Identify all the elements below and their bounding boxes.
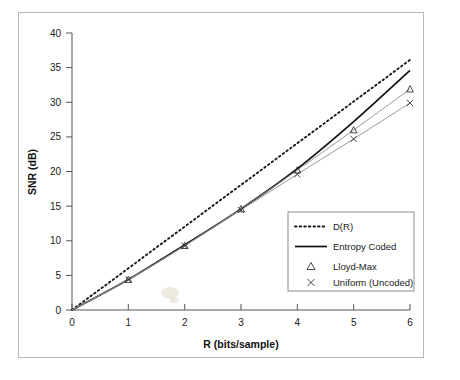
- y-tick-label: 40: [50, 28, 62, 39]
- x-tick-label: 4: [295, 317, 301, 328]
- x-tick-label: 6: [407, 317, 413, 328]
- data-point-marker-triangle: [407, 86, 414, 92]
- y-tick-label: 0: [55, 305, 61, 316]
- x-axis-ticks: [72, 304, 410, 310]
- y-tick-label: 5: [55, 270, 61, 281]
- figure-root: 0 5 10 15 20 25 30 35 40 0 1 2 3 4 5 6 R…: [0, 0, 460, 380]
- legend-label-uniform-uncoded: Uniform (Uncoded): [333, 277, 413, 288]
- legend: D(R) Entropy Coded Lloyd-Max Uniform (Un…: [288, 212, 414, 291]
- x-tick-label: 1: [126, 317, 132, 328]
- y-axis-ticks: [66, 33, 72, 310]
- data-point-marker-x: [351, 136, 357, 142]
- x-tick-label: 2: [182, 317, 188, 328]
- legend-label-entropy-coded: Entropy Coded: [333, 241, 396, 252]
- y-tick-label: 30: [50, 97, 62, 108]
- x-tick-label: 0: [69, 317, 75, 328]
- legend-label-lloyd-max: Lloyd-Max: [333, 261, 377, 272]
- y-tick-label: 25: [50, 131, 62, 142]
- x-tick-label: 3: [238, 317, 244, 328]
- scan-smudge: [169, 297, 179, 303]
- chart-canvas: 0 5 10 15 20 25 30 35 40 0 1 2 3 4 5 6 R…: [0, 0, 460, 380]
- y-tick-label: 10: [50, 235, 62, 246]
- y-tick-label: 15: [50, 201, 62, 212]
- y-axis-title: SNR (dB): [26, 149, 38, 195]
- y-tick-label: 35: [50, 62, 62, 73]
- y-tick-label: 20: [50, 166, 62, 177]
- data-point-marker-x: [294, 171, 300, 177]
- scan-smudge: [161, 287, 179, 299]
- x-tick-label: 5: [351, 317, 357, 328]
- x-axis-title: R (bits/sample): [203, 338, 278, 350]
- legend-label-dr: D(R): [333, 221, 353, 232]
- data-point-marker-x: [407, 100, 413, 106]
